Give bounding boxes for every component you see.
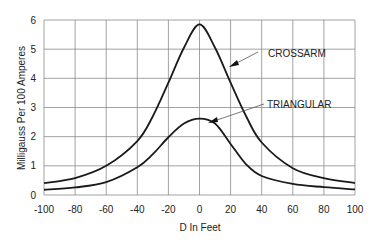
x-axis-title: D In Feet	[179, 222, 220, 233]
y-tick-label: 5	[30, 44, 36, 55]
x-tick-label: -60	[99, 204, 114, 215]
crossarm-label: CROSSARM	[268, 48, 326, 59]
y-tick-label: 6	[30, 15, 36, 26]
x-tick-label: -100	[34, 204, 54, 215]
y-tick-label: 3	[30, 102, 36, 113]
line-chart: 0123456 -100-80-60-40-20020406080100 CRO…	[0, 0, 370, 242]
x-tick-label: 60	[287, 204, 299, 215]
annotations: CROSSARM TRIANGULAR	[208, 48, 331, 123]
triangular-label: TRIANGULAR	[267, 99, 331, 110]
x-tick-label: -80	[68, 204, 83, 215]
y-axis-ticks: 0123456	[30, 15, 36, 201]
x-tick-label: 100	[347, 204, 364, 215]
x-tick-label: 80	[318, 204, 330, 215]
x-tick-label: -40	[130, 204, 145, 215]
y-tick-label: 0	[30, 190, 36, 201]
y-tick-label: 2	[30, 131, 36, 142]
x-tick-label: -20	[161, 204, 176, 215]
y-tick-label: 4	[30, 73, 36, 84]
triangular-arrow	[214, 104, 264, 121]
x-axis-ticks: -100-80-60-40-20020406080100	[34, 204, 364, 215]
x-tick-label: 20	[225, 204, 237, 215]
x-tick-label: 0	[197, 204, 203, 215]
y-tick-label: 1	[30, 160, 36, 171]
y-axis-title: Milligauss Per 100 Amperes	[16, 46, 27, 170]
x-tick-label: 40	[256, 204, 268, 215]
